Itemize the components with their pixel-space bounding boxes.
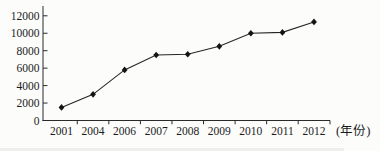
data-point	[248, 30, 254, 37]
line-chart-canvas: 0200040006000800010000120002001200420062…	[0, 0, 380, 151]
data-point	[280, 29, 286, 36]
y-axis-label: 0	[34, 115, 40, 127]
x-axis-unit-label: (年份)	[336, 124, 370, 138]
x-axis-label: 2008	[176, 125, 199, 137]
data-point	[59, 104, 65, 111]
y-axis-label: 8000	[17, 45, 40, 57]
y-axis-label: 4000	[17, 80, 40, 92]
x-axis-label: 2006	[113, 125, 136, 137]
y-axis-label: 12000	[11, 10, 40, 22]
data-line	[62, 22, 314, 108]
x-axis-label: 2010	[239, 125, 262, 137]
data-point	[185, 51, 191, 58]
x-axis-label: 2001	[50, 125, 73, 137]
y-axis-label: 6000	[17, 62, 40, 74]
x-axis-label: 2004	[82, 125, 105, 137]
scan-artifact	[0, 148, 344, 151]
x-axis-label: 2012	[302, 125, 325, 137]
data-point	[216, 43, 222, 50]
y-axis-label: 2000	[17, 97, 40, 109]
data-point	[153, 52, 159, 59]
y-axis-label: 10000	[11, 27, 40, 39]
data-point	[122, 67, 128, 74]
x-axis-label: 2011	[271, 125, 294, 137]
x-axis-label: 2009	[208, 125, 231, 137]
data-point	[311, 19, 317, 26]
x-axis-label: 2007	[145, 125, 168, 137]
data-point	[90, 91, 96, 98]
line-chart-figure: 0200040006000800010000120002001200420062…	[0, 0, 380, 151]
